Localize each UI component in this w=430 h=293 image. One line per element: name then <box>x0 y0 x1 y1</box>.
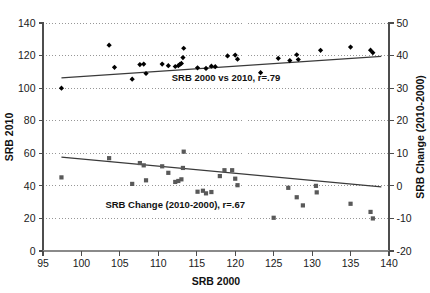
data-point-square <box>59 175 63 179</box>
right-axis-tick-label: 10 <box>397 147 409 159</box>
data-point-square <box>348 202 352 206</box>
left-axis-tick-label: 140 <box>18 17 36 29</box>
data-point-square <box>315 190 319 194</box>
srb-2000-vs-2010-annotation: SRB 2000 vs 2010, r=.79 <box>172 72 281 83</box>
right-axis-tick-label: -10 <box>397 212 412 224</box>
left-axis-tick-label: 120 <box>18 49 36 61</box>
srb-scatter-chart: 020406080100120140 -20-1001020304050 951… <box>0 0 430 293</box>
right-axis-tick-label: 30 <box>397 82 409 94</box>
data-point-square <box>181 166 185 170</box>
data-point-square <box>235 183 239 187</box>
left-axis-tick-label: 20 <box>24 212 36 224</box>
data-point-square <box>286 186 290 190</box>
right-axis-tick-label: 40 <box>397 49 409 61</box>
bottom-axis-tick-label: 140 <box>380 257 398 269</box>
data-point-square <box>142 163 146 167</box>
left-axis-tick-label: 40 <box>24 180 36 192</box>
bottom-axis-tick-label: 120 <box>226 257 244 269</box>
data-point-square <box>182 150 186 154</box>
bottom-axis-tick-label: 125 <box>265 257 283 269</box>
bottom-axis-tick-label: 100 <box>73 257 91 269</box>
data-point-square <box>160 164 164 168</box>
data-point-square <box>204 191 208 195</box>
data-point-square <box>144 178 148 182</box>
data-point-square <box>138 161 142 165</box>
bottom-axis-tick-label: 105 <box>111 257 129 269</box>
right-axis-tick-label: 20 <box>397 114 409 126</box>
bottom-axis-tick-label: 115 <box>188 257 205 269</box>
right-axis-tick-label: 0 <box>397 180 403 192</box>
chart-canvas: 020406080100120140 -20-1001020304050 951… <box>0 0 430 293</box>
bottom-axis-tick-label: 130 <box>303 257 321 269</box>
y-axis-title-left: SRB 2010 <box>3 113 15 162</box>
data-point-square <box>107 156 111 160</box>
data-point-square <box>209 190 213 194</box>
data-point-square <box>218 174 222 178</box>
bottom-axis-tick-label: 135 <box>342 257 360 269</box>
data-point-square <box>233 177 237 181</box>
left-axis-tick-label: 100 <box>18 82 36 94</box>
data-point-square <box>222 168 226 172</box>
data-point-square <box>371 216 375 220</box>
left-axis-tick-label: 60 <box>24 147 36 159</box>
data-point-square <box>272 216 276 220</box>
srb-change-annotation: SRB Change (2010-2000), r=.67 <box>105 199 245 210</box>
data-point-square <box>314 184 318 188</box>
data-point-square <box>130 182 134 186</box>
data-point-square <box>179 177 183 181</box>
chart-background <box>0 0 430 293</box>
bottom-axis-tick-label: 95 <box>37 257 49 269</box>
bottom-axis-tick-label: 110 <box>150 257 167 269</box>
data-point-square <box>295 195 299 199</box>
data-point-square <box>301 203 305 207</box>
right-axis-tick-label: 50 <box>397 17 409 29</box>
left-axis-tick-label: 80 <box>24 114 36 126</box>
data-point-square <box>195 190 199 194</box>
x-axis-title: SRB 2000 <box>192 275 241 287</box>
right-axis-tick-label: -20 <box>397 245 412 257</box>
data-point-square <box>230 168 234 172</box>
data-point-square <box>368 210 372 214</box>
left-axis-tick-label: 0 <box>30 245 36 257</box>
data-point-square <box>166 171 170 175</box>
y-axis-title-right: SRB Change (2010-2000) <box>414 75 426 199</box>
